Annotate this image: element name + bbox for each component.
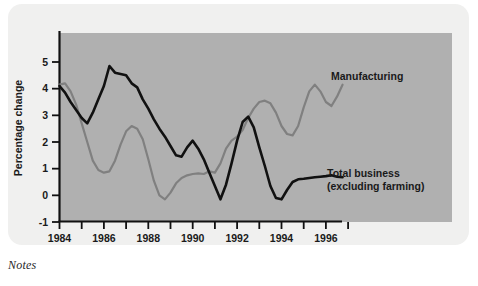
x-tick-label: 1984 xyxy=(48,232,72,244)
x-axis-ticks: 1984198619881990199219941996 xyxy=(48,222,348,244)
line-chart: -1012345 1984198619881990199219941996 Pe… xyxy=(0,0,478,286)
series-label-total-business-line1: Total business xyxy=(327,167,400,179)
y-tick-label: 3 xyxy=(42,109,48,121)
x-tick-label: 1990 xyxy=(181,232,205,244)
y-tick-label: -1 xyxy=(39,216,48,228)
x-tick-label: 1986 xyxy=(92,232,116,244)
y-tick-label: 2 xyxy=(42,136,48,148)
x-tick-label: 1992 xyxy=(225,232,249,244)
series-label-manufacturing: Manufacturing xyxy=(331,70,403,82)
chart-figure: -1012345 1984198619881990199219941996 Pe… xyxy=(0,0,478,286)
x-tick-label: 1988 xyxy=(137,232,161,244)
y-tick-label: 5 xyxy=(42,56,48,68)
y-axis-title: Percentage change xyxy=(12,80,24,176)
series-label-total-business-line2: (excluding farming) xyxy=(327,180,424,192)
y-tick-label: 0 xyxy=(42,189,48,201)
notes-label: Notes xyxy=(8,258,36,273)
y-tick-label: 1 xyxy=(42,162,48,174)
plot-background-panel xyxy=(60,33,452,222)
x-tick-label: 1996 xyxy=(314,232,338,244)
x-tick-label: 1994 xyxy=(270,232,294,244)
y-tick-label: 4 xyxy=(42,82,48,94)
y-axis-ticks: -1012345 xyxy=(39,56,60,228)
